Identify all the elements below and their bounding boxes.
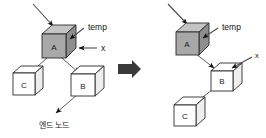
left-x-label: x [101, 43, 106, 53]
right-node-c[interactable]: C [174, 97, 205, 126]
right-node-a[interactable]: A [176, 23, 209, 55]
right-node-b[interactable]: B [211, 63, 242, 91]
left-node-a[interactable]: A [42, 25, 76, 58]
transition-arrow-icon [118, 60, 141, 78]
left-incoming-pointer-line [33, 4, 53, 26]
right-incoming-pointer-line [168, 4, 187, 24]
diagram-svg: C B A temp [0, 0, 266, 138]
left-temp-label: temp [88, 22, 107, 32]
left-x-pointer[interactable]: x [79, 43, 106, 53]
right-edge-a-b [196, 54, 214, 68]
right-node-c-label: C [182, 112, 188, 121]
right-x-pointer[interactable]: x [232, 51, 259, 69]
right-temp-label: temp [222, 22, 241, 32]
left-incoming-pointer [33, 4, 53, 26]
left-edge-b-endnode [56, 94, 78, 113]
diagram-canvas: C B A temp [0, 0, 266, 138]
left-edge-b-endnode-line [56, 94, 78, 113]
left-caption-end-node: 엔드 노드 [39, 120, 70, 130]
right-edge-a-b-line [196, 54, 214, 68]
transition-arrow-group [118, 60, 141, 78]
left-node-c-label: C [21, 81, 27, 90]
right-incoming-pointer [168, 4, 187, 24]
left-node-a-label: A [51, 43, 57, 52]
left-panel-group: C B A temp [13, 4, 107, 130]
right-x-label: x [255, 51, 259, 60]
right-node-a-label: A [184, 40, 190, 49]
left-node-b-label: B [80, 82, 85, 91]
right-node-b-label: B [219, 77, 224, 86]
left-node-c[interactable]: C [13, 66, 43, 95]
right-panel-group: A B C temp [168, 4, 259, 126]
left-node-b[interactable]: B [71, 66, 104, 96]
